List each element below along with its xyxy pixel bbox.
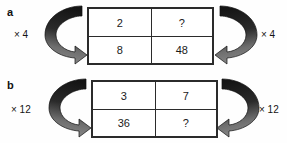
panel-b-curved-arrow-left-icon bbox=[45, 75, 93, 141]
table-a-cell-r0c1: ? bbox=[151, 9, 213, 36]
ratio-tables-figure: a × 4 × 4 bbox=[0, 0, 287, 143]
panel-a: a × 4 × 4 bbox=[0, 0, 287, 71]
panel-b-multiplier-left-label: × 12 bbox=[11, 105, 31, 115]
table-b-cell-r0c0: 3 bbox=[93, 82, 155, 109]
panel-b: b × 12 × 12 bbox=[0, 71, 287, 142]
panel-b-multiplier-right-label: × 12 bbox=[259, 105, 279, 115]
panel-a-ratio-table: 2 ? 8 48 bbox=[87, 7, 214, 65]
table-a-cell-r1c0: 8 bbox=[89, 36, 151, 63]
panel-b-letter-label: b bbox=[7, 80, 14, 91]
table-a-cell-r0c0: 2 bbox=[89, 9, 151, 36]
panel-a-multiplier-right-label: × 4 bbox=[261, 30, 275, 40]
panel-b-curved-arrow-right-icon bbox=[211, 75, 261, 141]
panel-a-letter-label: a bbox=[7, 7, 13, 18]
table-b-cell-r0c1: 7 bbox=[155, 82, 217, 109]
panel-a-curved-arrow-left-icon bbox=[42, 2, 88, 68]
panel-a-curved-arrow-right-icon bbox=[208, 2, 260, 68]
panel-b-ratio-table: 3 7 36 ? bbox=[91, 80, 218, 138]
table-b-cell-r1c1: ? bbox=[155, 109, 217, 136]
table-a-cell-r1c1: 48 bbox=[151, 36, 213, 63]
table-b-cell-r1c0: 36 bbox=[93, 109, 155, 136]
panel-a-multiplier-left-label: × 4 bbox=[14, 30, 28, 40]
